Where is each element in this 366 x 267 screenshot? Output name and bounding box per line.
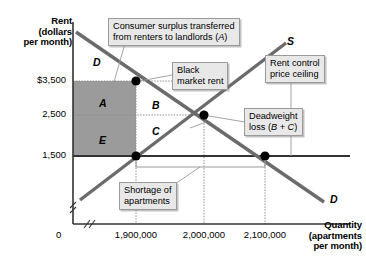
- y-tick-2500: 2,500: [12, 109, 66, 120]
- x-axis-title-line3: per month): [288, 241, 362, 252]
- callout-deadweight-plus: +: [277, 122, 287, 132]
- callout-shortage-line1: Shortage of: [124, 185, 172, 196]
- callout-black-market-line2: market rent: [177, 76, 223, 87]
- callout-price-ceiling: Rent control price ceiling: [265, 55, 325, 83]
- region-label-e: E: [99, 135, 106, 147]
- callout-consumer-surplus-line2-pre: from renters to landlords (: [113, 32, 218, 42]
- callout-consumer-surplus-line2: from renters to landlords (A): [113, 32, 235, 43]
- y-axis-title-line3: per month): [6, 37, 72, 48]
- x-axis-title: Quantity (apartments per month): [288, 220, 362, 252]
- y-tick-3500: $3,500: [12, 75, 66, 86]
- callout-consumer-surplus-line2-post: ): [224, 32, 227, 42]
- region-label-d: D: [93, 57, 101, 69]
- region-label-a: A: [99, 98, 107, 110]
- rent-control-diagram: Rent (dollars per month) Quantity (apart…: [0, 0, 366, 267]
- y-axis-title: Rent (dollars per month): [6, 16, 72, 48]
- region-label-c: C: [152, 126, 160, 138]
- callout-deadweight-loss: Deadweight loss (B + C): [244, 108, 303, 136]
- callout-black-market-line1: Black: [177, 65, 223, 76]
- region-label-b: B: [152, 100, 160, 112]
- callout-consumer-surplus-line1: Consumer surplus transferred: [113, 21, 235, 32]
- callout-black-market-rent: Black market rent: [172, 62, 228, 90]
- callout-deadweight-line2-post: ): [294, 122, 297, 132]
- point-equilibrium: [199, 110, 208, 119]
- point-quantity-demanded: [260, 151, 269, 160]
- callout-shortage: Shortage of apartments: [119, 182, 177, 210]
- callout-shortage-line2: apartments: [124, 196, 172, 207]
- callout-deadweight-line2-pre: loss (: [249, 122, 271, 132]
- point-quantity-supplied: [131, 151, 140, 160]
- x-tick-1900000: 1,900,000: [105, 230, 167, 241]
- point-black-market-rent: [131, 76, 140, 85]
- x-tick-2100000: 2,100,000: [234, 230, 296, 241]
- y-tick-1500: 1,500: [12, 150, 66, 161]
- shortage-bracket: [136, 160, 265, 167]
- demand-curve-label: D: [330, 194, 338, 206]
- callout-price-ceiling-line1: Rent control: [270, 58, 320, 69]
- supply-curve-label: S: [287, 36, 294, 48]
- leader-deadweight: [209, 116, 245, 122]
- x-tick-2000000: 2,000,000: [173, 230, 235, 241]
- callout-deadweight-line1: Deadweight: [249, 111, 298, 122]
- origin-label: 0: [56, 230, 61, 241]
- callout-consumer-surplus: Consumer surplus transferred from renter…: [108, 18, 240, 46]
- callout-deadweight-line2: loss (B + C): [249, 122, 298, 133]
- callout-price-ceiling-line2: price ceiling: [270, 69, 320, 80]
